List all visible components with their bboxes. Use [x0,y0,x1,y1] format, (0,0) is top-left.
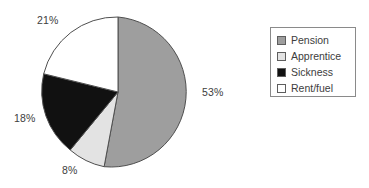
pie-chart-figure: 53% 8% 18% 21% Pension Apprentice Sickne… [0,0,369,188]
legend-swatch-icon-rentfuel [277,84,286,93]
legend-label-apprentice: Apprentice [291,51,341,62]
pie-label-sickness: 18% [14,112,35,124]
legend-item-sickness[interactable]: Sickness [277,65,355,80]
legend-item-rentfuel[interactable]: Rent/fuel [277,81,355,96]
legend-item-pension[interactable]: Pension [277,33,355,48]
legend-swatch-icon-pension [277,36,286,45]
chart-legend: Pension Apprentice Sickness Rent/fuel [270,27,356,97]
pie-label-apprentice: 8% [62,164,77,176]
legend-swatch-icon-sickness [277,68,286,77]
legend-item-apprentice[interactable]: Apprentice [277,49,355,64]
legend-label-rentfuel: Rent/fuel [291,83,333,94]
pie-label-rentfuel: 21% [37,14,58,26]
pie-label-pension: 53% [202,86,223,98]
legend-label-pension: Pension [291,35,329,46]
legend-label-sickness: Sickness [291,67,333,78]
legend-swatch-icon-apprentice [277,52,286,61]
